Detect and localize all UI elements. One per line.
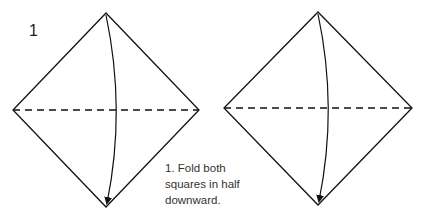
right-square [224,12,412,205]
caption-line-3: downward. [165,192,240,208]
step-number: 1 [29,22,38,40]
caption-line-2: squares in half [165,176,240,192]
step-caption: 1. Fold both squares in half downward. [165,160,240,208]
left-fold-arrow-icon [106,15,116,203]
caption-line-1: 1. Fold both [165,160,240,176]
origami-diagram: 1 1. Fold both squares in half downward. [0,0,422,224]
